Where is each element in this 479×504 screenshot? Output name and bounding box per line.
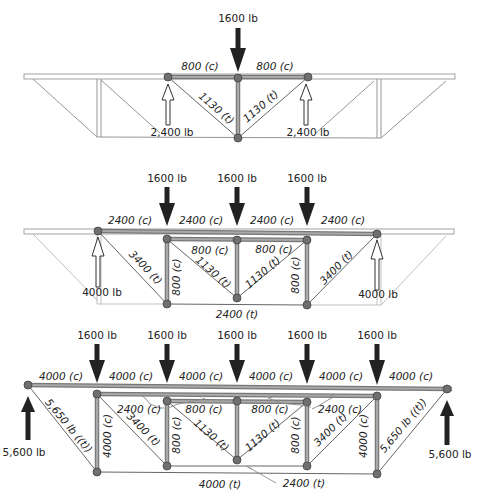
member-force-label: 4000 (c) [249, 370, 293, 382]
node [163, 462, 171, 470]
member-force-label: 800 (c) [289, 256, 301, 293]
node [233, 236, 241, 244]
member-bottom-chord [167, 304, 307, 305]
member-force-label: 1130 (t) [192, 417, 232, 454]
load-arrow-down-icon [159, 187, 175, 226]
member-force-label: 2400 (c) [179, 214, 223, 226]
member-force-label: 4000 (c) [357, 414, 369, 458]
reaction-label: 4000 lb [82, 286, 122, 298]
load-label: 1600 lb [287, 329, 327, 341]
node [163, 397, 171, 405]
load-label: 1600 lb [77, 329, 117, 341]
member-force-label: 4000 (t) [199, 478, 241, 490]
node [163, 235, 171, 243]
member-force-label: 3400 (t) [317, 248, 355, 287]
load-arrow-down-icon [230, 28, 246, 72]
node [93, 390, 101, 398]
node [303, 236, 311, 244]
member-force-label: 5,650 lb ((t)) [377, 396, 429, 455]
member-force-label: 1130 (t) [242, 417, 282, 454]
reaction-label: 2,400 lb [287, 126, 330, 138]
member-force-label: 800 (c) [289, 416, 301, 453]
reaction-arrow-up-icon [162, 84, 174, 125]
load-arrow-down-icon [369, 344, 385, 385]
node [234, 74, 242, 82]
panel-1-single-load-truss: 1600 lb 800 (c) 800 (c) 1130 (t) 1130 (t… [24, 12, 455, 142]
reaction-label: 5,600 lb [3, 446, 46, 458]
member-force-label: 4000 (c) [39, 370, 83, 382]
member-outer-bottom-chord [97, 472, 377, 474]
load-label: 1600 lb [147, 329, 187, 341]
node [373, 470, 381, 478]
member-force-label: 4000 (c) [389, 370, 433, 382]
node [373, 392, 381, 400]
member-force-label: 4000 (c) [101, 414, 113, 458]
truss-diagram-figure: 1600 lb 800 (c) 800 (c) 1130 (t) 1130 (t… [0, 0, 479, 504]
member-diagonal [28, 385, 97, 472]
load-arrow-down-icon [89, 344, 105, 383]
node [93, 468, 101, 476]
member-force-label: 4000 (c) [179, 370, 223, 382]
reaction-arrow-up-icon [92, 237, 104, 287]
load-arrow-down-icon [229, 187, 245, 226]
load-label: 1600 lb [217, 329, 257, 341]
member-diagonal [377, 389, 447, 474]
node [373, 230, 381, 238]
panel-2-three-load-truss: 1600 lb 1600 lb 1600 lb 2400 (c) 2400 (c… [24, 172, 454, 320]
member-force-label: 2400 (c) [117, 403, 161, 415]
member-force-label: 4000 (c) [109, 370, 153, 382]
node [233, 456, 241, 464]
member-force-label: 800 (c) [251, 403, 288, 415]
node [24, 381, 32, 389]
member-force-label: 2400 (c) [250, 214, 294, 226]
member-force-label: 5,650 lb ((t)) [43, 396, 95, 455]
member-force-label: 2400 (c) [321, 214, 365, 226]
load-label: 1600 lb [217, 172, 257, 184]
member-force-label: 4000 (c) [319, 370, 363, 382]
member-force-label: 1130 (t) [194, 254, 234, 291]
node [443, 385, 451, 393]
reaction-arrow-up-icon [300, 84, 312, 125]
member-force-label: 1130 (t) [197, 90, 237, 127]
panel-3-five-load-truss: 1600 lb 1600 lb 1600 lb 1600 lb 1600 lb … [3, 329, 472, 490]
load-arrow-down-icon [299, 344, 315, 384]
member-force-label: 2400 (t) [283, 477, 325, 489]
load-label: 1600 lb [287, 172, 327, 184]
reaction-label: 4000 lb [358, 288, 398, 300]
reaction-label: 2,400 lb [151, 126, 194, 138]
reaction-arrow-up-icon [440, 400, 454, 445]
member-force-label: 800 (c) [191, 244, 228, 256]
member-force-label: 800 (c) [181, 60, 218, 72]
load-label: 1600 lb [218, 12, 258, 24]
reaction-arrow-up-icon [21, 396, 35, 440]
load-label: 1600 lb [147, 172, 187, 184]
node [303, 398, 311, 406]
member-force-label: 2400 (t) [216, 308, 258, 320]
load-arrow-down-icon [229, 344, 245, 383]
node [233, 294, 241, 302]
load-arrow-down-icon [299, 187, 315, 226]
reaction-label: 5,600 lb [429, 448, 472, 460]
node [234, 134, 242, 142]
member-force-label: 800 (c) [185, 403, 222, 415]
load-label: 1600 lb [357, 329, 397, 341]
member-force-label: 1130 (t) [242, 254, 282, 291]
member-force-label: 2400 (c) [108, 214, 152, 226]
node [303, 301, 311, 309]
node [233, 397, 241, 405]
node [94, 227, 102, 235]
node [163, 300, 171, 308]
member-force-label: 800 (c) [256, 60, 293, 72]
member-force-label: 800 (c) [170, 258, 182, 295]
node [303, 462, 311, 470]
member-force-label: 800 (c) [170, 416, 182, 453]
load-arrow-down-icon [159, 344, 175, 383]
node [164, 73, 172, 81]
node [304, 73, 312, 81]
